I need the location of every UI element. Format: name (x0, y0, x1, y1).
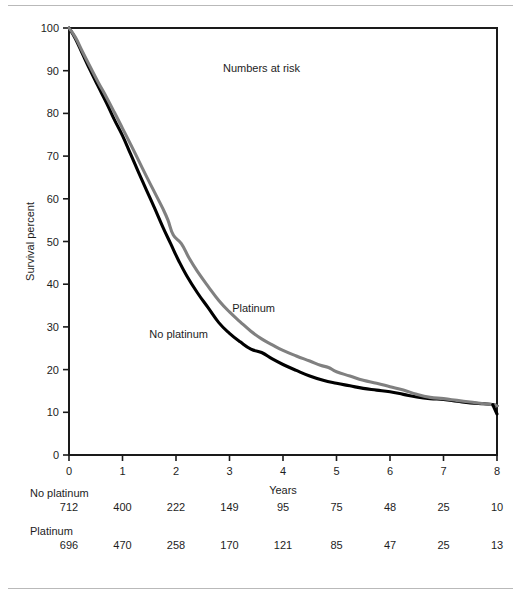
risk-group-name: Platinum (30, 525, 73, 537)
curve-platinum (69, 28, 497, 406)
risk-value: 712 (60, 501, 78, 513)
x-tick-label-5: 5 (333, 465, 339, 477)
curves-group (69, 28, 497, 414)
y-tick-label-40: 40 (47, 278, 59, 290)
x-tick-label-7: 7 (440, 465, 446, 477)
y-tick-label-20: 20 (47, 364, 59, 376)
x-tick-label-8: 8 (494, 465, 500, 477)
series-label-no-platinum: No platinum (149, 328, 208, 340)
risk-value: 400 (113, 501, 131, 513)
risk-value: 170 (220, 539, 238, 551)
y-tick-label-10: 10 (47, 406, 59, 418)
risk-value: 25 (437, 539, 449, 551)
y-tick-label-0: 0 (53, 449, 59, 461)
numbers-at-risk-caption: Numbers at risk (0, 62, 523, 74)
series-label-platinum: Platinum (232, 302, 275, 314)
risk-group-name: No platinum (30, 487, 89, 499)
numbers-at-risk-table: No platinum7124002221499575482510Platinu… (0, 487, 523, 555)
x-tick-label-1: 1 (119, 465, 125, 477)
x-tick-label-4: 4 (280, 465, 286, 477)
risk-value: 13 (491, 539, 503, 551)
y-tick-label-80: 80 (47, 107, 59, 119)
y-tick-label-100: 100 (41, 22, 59, 34)
x-tick-label-2: 2 (173, 465, 179, 477)
risk-value: 47 (384, 539, 396, 551)
y-tick-label-60: 60 (47, 193, 59, 205)
y-tick-label-70: 70 (47, 150, 59, 162)
y-tick-label-30: 30 (47, 321, 59, 333)
y-axis-title: Survival percent (24, 202, 36, 281)
risk-value: 470 (113, 539, 131, 551)
risk-value: 10 (491, 501, 503, 513)
figure-container: 0102030405060708090100012345678YearsSurv… (0, 0, 523, 601)
risk-value: 149 (220, 501, 238, 513)
y-tick-label-50: 50 (47, 236, 59, 248)
risk-row-spacer (0, 517, 523, 525)
x-tick-label-6: 6 (387, 465, 393, 477)
risk-value: 258 (167, 539, 185, 551)
plot-frame (69, 28, 497, 455)
risk-value: 95 (277, 501, 289, 513)
risk-row: No platinum7124002221499575482510 (0, 487, 523, 517)
x-tick-label-3: 3 (226, 465, 232, 477)
risk-value: 121 (274, 539, 292, 551)
axes-group: 0102030405060708090100012345678YearsSurv… (24, 22, 500, 496)
risk-value: 222 (167, 501, 185, 513)
risk-value: 75 (330, 501, 342, 513)
risk-row: Platinum69647025817012185472513 (0, 525, 523, 555)
risk-value: 25 (437, 501, 449, 513)
risk-value: 48 (384, 501, 396, 513)
risk-value: 696 (60, 539, 78, 551)
x-tick-label-0: 0 (66, 465, 72, 477)
risk-value: 85 (330, 539, 342, 551)
